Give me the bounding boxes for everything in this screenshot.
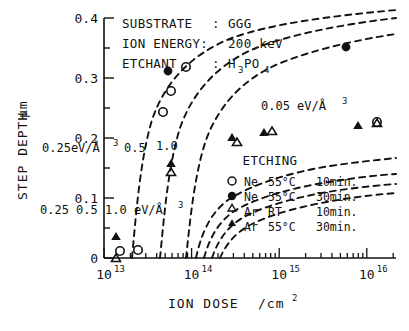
legend-item-ar-rt-10min[interactable]: Ar RT 10min. [228, 204, 358, 219]
svg-text:ETCHANT: ETCHANT [122, 56, 177, 71]
svg-text:1.0: 1.0 [156, 139, 178, 153]
filled-triangle-icon [228, 219, 236, 226]
legend-temp: 55°C [268, 190, 296, 204]
open-triangle-icon [228, 204, 236, 211]
legend-time: 30min. [316, 220, 358, 234]
y-axis-unit: µm [15, 100, 30, 118]
data-point [166, 168, 175, 176]
annotation-lower-group: 0.25 0.5 1.0 eV/Å 3 [40, 200, 183, 217]
open-circle-icon [228, 177, 236, 185]
y-tick-label: 0 [90, 251, 98, 266]
data-point [166, 159, 176, 167]
x-axis-ticks [104, 248, 393, 258]
y-tick-label: 0.4 [75, 11, 99, 26]
svg-text:10: 10 [359, 267, 375, 282]
filled-circle-icon [228, 192, 236, 200]
data-point [167, 87, 175, 95]
svg-text:10: 10 [96, 267, 112, 282]
data-point [111, 232, 121, 240]
header-line-ion-energy: ION ENERGY: 200 keV [122, 36, 283, 51]
legend-temp: 55°C [268, 220, 296, 234]
y-tick-labels: 0.4 0.3 0.2 0.1 0 [75, 11, 99, 266]
annotation-upper-05: 0.5 [124, 141, 146, 155]
svg-text:µm: µm [15, 100, 30, 118]
svg-text:PO: PO [244, 56, 260, 71]
x-tick-labels: 10 13 10 14 10 15 10 16 [96, 264, 387, 282]
legend-time: 10min. [316, 205, 358, 219]
data-point [134, 246, 142, 254]
y-axis-title: STEP DEPTH [15, 112, 30, 200]
svg-text:3: 3 [113, 138, 118, 148]
svg-text:13: 13 [114, 264, 125, 274]
data-point [259, 128, 269, 136]
legend-gas: Ar [244, 220, 258, 234]
x-tick-label: 10 16 [359, 264, 388, 282]
legend-time: 10min. [316, 175, 358, 189]
legend: ETCHING Ne 55°C 10min. Ne 55°C 30min. Ar… [228, 153, 358, 234]
svg-text:ION DOSE: ION DOSE [168, 296, 239, 311]
svg-text:14: 14 [202, 264, 213, 274]
legend-gas: Ne [244, 175, 258, 189]
svg-text:15: 15 [289, 264, 300, 274]
svg-text:3: 3 [342, 96, 347, 106]
chart-canvas: 0.4 0.3 0.2 0.1 0 [0, 0, 409, 331]
x-tick-label: 10 13 [96, 264, 125, 282]
svg-text:STEP DEPTH: STEP DEPTH [15, 112, 30, 200]
svg-text:GGG: GGG [228, 16, 251, 31]
legend-item-ne-30min[interactable]: Ne 55°C 30min. [228, 190, 358, 204]
svg-text:/cm: /cm [258, 296, 284, 311]
data-point [227, 133, 237, 141]
legend-gas: Ne [244, 190, 258, 204]
svg-text::: : [212, 16, 220, 31]
svg-text:0.5: 0.5 [124, 141, 146, 155]
svg-text:4: 4 [264, 65, 269, 75]
data-point [342, 43, 351, 52]
header-block: SUBSTRATE : GGG ION ENERGY: 200 keV ETCH… [122, 16, 283, 75]
x-axis-title: ION DOSE /cm 2 [168, 293, 297, 311]
x-tick-label: 10 15 [271, 264, 300, 282]
svg-text:2: 2 [292, 293, 297, 303]
data-point [353, 121, 363, 129]
svg-text:16: 16 [377, 264, 388, 274]
legend-item-ar-55-30min[interactable]: Ar 55°C 30min. [228, 219, 358, 234]
legend-temp: RT [268, 205, 282, 219]
header-line-substrate: SUBSTRATE : GGG [122, 16, 251, 31]
svg-text:10: 10 [271, 267, 287, 282]
header-line-etchant: ETCHANT : H 3 PO 4 [122, 56, 269, 75]
svg-text:SUBSTRATE: SUBSTRATE [122, 16, 192, 31]
svg-text:200 keV: 200 keV [228, 36, 283, 51]
svg-text:0.25 0.5 1.0 eV/Å: 0.25 0.5 1.0 eV/Å [40, 202, 164, 217]
svg-text:ION ENERGY:: ION ENERGY: [122, 36, 208, 51]
svg-text:3: 3 [238, 65, 243, 75]
y-tick-label: 0.3 [75, 71, 98, 86]
legend-temp: 55°C [268, 175, 296, 189]
legend-gas: Ar [244, 205, 258, 219]
annotation-upper-025: 0.25eV/Å 3 [42, 138, 118, 155]
chart-figure: 0.4 0.3 0.2 0.1 0 [0, 0, 409, 331]
legend-time: 30min. [316, 190, 358, 204]
svg-text:3: 3 [178, 200, 183, 210]
svg-text:0.25eV/Å: 0.25eV/Å [42, 140, 101, 155]
svg-text:0.05 eV/Å: 0.05 eV/Å [261, 98, 327, 113]
legend-title: ETCHING [243, 153, 298, 168]
annotation-upper-10: 1.0 [156, 139, 178, 153]
data-point [159, 108, 167, 116]
data-point [116, 247, 124, 255]
data-point [267, 127, 276, 135]
svg-text:10: 10 [184, 267, 200, 282]
annotation-energy-005: 0.05 eV/Å 3 [261, 96, 347, 113]
x-tick-label: 10 14 [184, 264, 213, 282]
svg-text:H: H [228, 56, 236, 71]
legend-item-ne-10min[interactable]: Ne 55°C 10min. [228, 175, 358, 189]
svg-text::: : [212, 56, 220, 71]
